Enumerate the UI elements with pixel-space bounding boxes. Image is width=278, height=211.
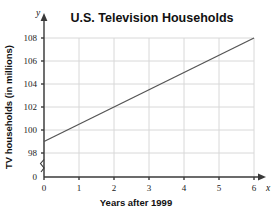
x-tick-label-5: 5 xyxy=(217,183,222,193)
us-television-households-line-chart: U.S. Television Households xyxy=(0,0,278,211)
x-tick-label-1: 1 xyxy=(77,183,82,193)
x-axis-variable-symbol: x xyxy=(265,183,271,193)
y-axis-title: TV households (in millions) xyxy=(3,45,14,169)
y-tick-labels: 108 106 104 102 100 98 0 xyxy=(24,33,38,182)
x-axis xyxy=(44,174,266,181)
y-tick-label-108: 108 xyxy=(24,33,38,43)
chart-container: U.S. Television Households xyxy=(0,0,278,211)
x-tick-label-6: 6 xyxy=(252,183,257,193)
y-axis-variable-symbol: y xyxy=(35,8,41,18)
x-tick-labels: 0 1 2 3 4 5 6 xyxy=(42,183,257,193)
y-tick-label-100: 100 xyxy=(24,125,38,135)
y-axis-arrowhead xyxy=(41,13,48,21)
x-axis-title: Years after 1999 xyxy=(100,197,172,208)
x-tick-label-4: 4 xyxy=(182,183,187,193)
y-tick-label-106: 106 xyxy=(24,56,38,66)
y-tick-label-104: 104 xyxy=(24,79,38,89)
y-tick-label-102: 102 xyxy=(24,102,38,112)
chart-title: U.S. Television Households xyxy=(71,11,234,25)
x-axis-arrowhead xyxy=(258,174,266,181)
x-tick-label-3: 3 xyxy=(147,183,152,193)
x-tick-label-2: 2 xyxy=(112,183,117,193)
y-tick-label-98: 98 xyxy=(28,148,38,158)
y-tick-label-origin: 0 xyxy=(33,172,38,182)
x-tick-label-0: 0 xyxy=(42,183,47,193)
